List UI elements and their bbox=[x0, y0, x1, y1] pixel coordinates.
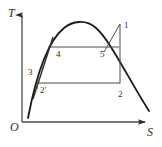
state-label-5: 5 bbox=[100, 50, 105, 59]
state-label-1: 1 bbox=[124, 21, 129, 30]
state-label-2: 2 bbox=[118, 90, 123, 99]
state-label-4: 4 bbox=[56, 50, 61, 59]
state-label-2-prime: 2′ bbox=[40, 86, 46, 95]
saturation-dome-curve bbox=[28, 22, 149, 118]
y-axis-label: T bbox=[8, 7, 15, 19]
x-axis-label: S bbox=[147, 126, 153, 138]
ts-diagram-figure: T S O 1 2 2′ 3 4 5 bbox=[0, 0, 162, 147]
diagram-canvas bbox=[0, 0, 162, 147]
origin-label: O bbox=[10, 121, 19, 133]
state-label-3: 3 bbox=[28, 68, 33, 77]
